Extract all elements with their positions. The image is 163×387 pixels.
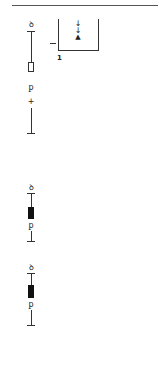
box-left-wall: [58, 19, 59, 50]
vertical-line: [31, 231, 32, 241]
mid-glyph: ꝑ: [25, 222, 37, 230]
box-right-wall: [98, 19, 99, 50]
vertical-line: [31, 310, 32, 325]
top-glyph: ꝺ: [25, 21, 37, 29]
arrow-up-icon: ▲: [72, 33, 84, 41]
foot-bar: [27, 241, 35, 242]
top-glyph: ꝺ: [25, 264, 37, 272]
top-rule: [12, 5, 158, 6]
filled-block-icon: [28, 285, 34, 298]
top-glyph: ꝺ: [25, 184, 37, 192]
foot-bar: [27, 133, 35, 134]
mid-glyph: ꝑ: [25, 84, 37, 92]
foot-bar: [27, 325, 35, 326]
box-bottom: [58, 50, 99, 51]
side-marker: [50, 43, 56, 44]
box-label: 1: [57, 54, 62, 62]
vertical-line: [31, 108, 32, 133]
small-glyph: +: [25, 98, 37, 106]
vertical-line: [31, 31, 32, 63]
outlined-block-icon: [28, 62, 34, 72]
vertical-line: [31, 193, 32, 207]
mid-glyph: ꝑ: [25, 301, 37, 309]
filled-block-icon: [28, 207, 34, 219]
vertical-line: [31, 273, 32, 285]
